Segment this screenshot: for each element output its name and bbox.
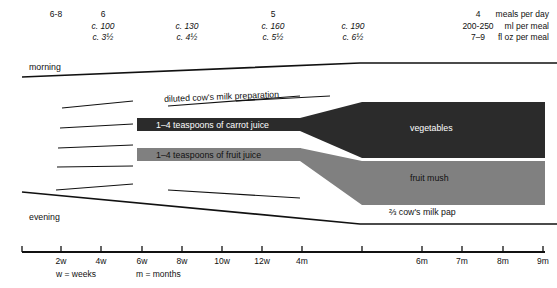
axis-tick-label-10w: 10w	[207, 256, 237, 266]
meal-separator-line	[56, 184, 133, 190]
timeline-diagram	[0, 0, 557, 288]
meal-separator-line	[168, 190, 300, 198]
axis-tick-label-8m: 8m	[488, 256, 518, 266]
axis-tick-label-2w: 2w	[46, 256, 76, 266]
axis-tick-label-4w: 4w	[86, 256, 116, 266]
axis-tick-label-6m: 6m	[407, 256, 437, 266]
meal-separator-line	[57, 166, 133, 167]
axis-note-months: m = months	[136, 269, 181, 279]
label-carrot-juice: 1–4 teaspoons of carrot juice	[156, 120, 269, 130]
axis-tick-label-6w: 6w	[127, 256, 157, 266]
axis-tick-label-9m: 9m	[528, 256, 557, 266]
axis-note-weeks: w = weeks	[56, 269, 96, 279]
infographic-root: 6-8 6 c. 100 c. 3½ c. 130 c. 4½ 5 c. 160…	[0, 0, 557, 288]
label-evening: evening	[29, 212, 60, 222]
meal-separator-line	[62, 101, 133, 108]
label-vegetables: vegetables	[410, 123, 453, 133]
meal-separator-line	[58, 145, 133, 148]
label-fruit-juice: 1–4 teaspoons of fruit juice	[156, 150, 261, 160]
axis-tick-label-8w: 8w	[167, 256, 197, 266]
meal-separator-line	[60, 124, 133, 128]
label-cow-milk-pap: ⅔ cow's milk pap	[389, 207, 456, 217]
axis-tick-label-7m: 7m	[447, 256, 477, 266]
label-fruit-mush: fruit mush	[410, 173, 449, 183]
axis-tick-label-12w: 12w	[247, 256, 277, 266]
axis-tick-label-4m: 4m	[287, 256, 317, 266]
label-morning: morning	[29, 62, 61, 72]
envelope-top-boundary	[22, 63, 557, 77]
